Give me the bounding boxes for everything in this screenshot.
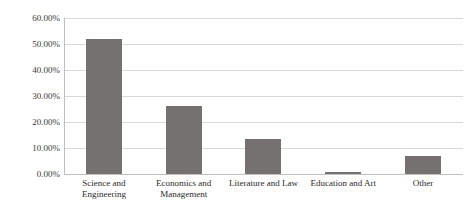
bar-slot bbox=[303, 18, 383, 174]
y-tick-label-20: 20.00% bbox=[2, 117, 60, 127]
bar-economics-and-management[interactable] bbox=[166, 106, 202, 174]
bar-science-and-engineering[interactable] bbox=[86, 39, 122, 174]
y-tick-label-30: 30.00% bbox=[2, 91, 60, 101]
y-tick-label-60: 60.00% bbox=[2, 13, 60, 23]
x-tick-label-other: Other bbox=[368, 178, 475, 189]
plot-area bbox=[64, 18, 463, 174]
bar-other[interactable] bbox=[405, 156, 441, 174]
bar-slot bbox=[383, 18, 463, 174]
y-tick-label-40: 40.00% bbox=[2, 65, 60, 75]
x-axis-line bbox=[64, 174, 463, 175]
bar-chart: 60.00% 50.00% 40.00% 30.00% 20.00% 10.00… bbox=[0, 0, 475, 215]
bar-slot bbox=[144, 18, 224, 174]
bar-slot bbox=[224, 18, 304, 174]
y-axis-line bbox=[64, 18, 65, 175]
y-tick-label-50: 50.00% bbox=[2, 39, 60, 49]
bar-slot bbox=[64, 18, 144, 174]
bar-literature-and-law[interactable] bbox=[245, 139, 281, 174]
y-tick-label-10: 10.00% bbox=[2, 143, 60, 153]
